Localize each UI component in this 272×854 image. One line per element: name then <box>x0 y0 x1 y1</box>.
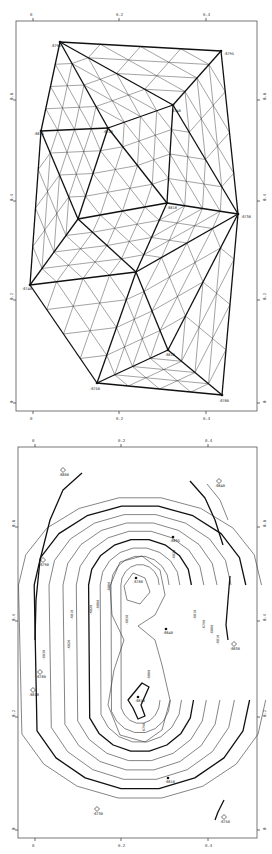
y-tick-label-left: 0.2 <box>11 709 16 717</box>
mesh-edge <box>152 179 168 185</box>
mesh-node-label: -6810 <box>164 353 175 357</box>
mesh-element-edge <box>30 272 136 285</box>
mesh-edge <box>42 153 50 269</box>
mesh-edge <box>189 92 225 133</box>
mesh-node-label: -6750 <box>89 387 100 391</box>
mesh-edge <box>110 259 122 276</box>
x-tick-label-top: 0 <box>32 438 35 443</box>
mesh-edge <box>145 184 153 207</box>
y-tick-label-right: 0.2 <box>262 709 267 717</box>
mesh-edge <box>169 179 185 206</box>
control-point-marker <box>165 628 168 631</box>
contour-value-label: -6800 <box>210 625 214 635</box>
mesh-edge <box>91 107 96 129</box>
mesh-edge <box>145 89 185 91</box>
y-tick-label-right: 0.4 <box>262 193 267 201</box>
mesh-edge <box>115 292 144 375</box>
mesh-edge <box>55 64 91 129</box>
contour-value-label: -6820 <box>89 605 93 615</box>
mesh-edge <box>69 196 86 197</box>
mesh-edge <box>157 111 172 130</box>
well-diamond-icon <box>222 815 227 820</box>
contour-line <box>207 484 228 520</box>
mesh-edge <box>122 255 144 259</box>
control-point-label: -6810 <box>164 780 175 784</box>
mesh-node-label: -6740 <box>170 109 181 113</box>
mesh-fine-triangles <box>33 44 234 392</box>
mesh-node-label: -6780 <box>218 399 229 403</box>
mesh-element-edge <box>108 105 173 128</box>
mesh-edge <box>47 300 127 310</box>
y-tick-label-right: 0.2 <box>262 292 267 300</box>
mesh-node-marker <box>29 284 32 287</box>
contour-value-label: -6800 <box>107 582 111 592</box>
mesh-edge <box>123 122 125 147</box>
contour-value-label: -6800 <box>147 670 151 680</box>
mesh-edge <box>66 232 93 235</box>
control-point-marker <box>172 536 175 539</box>
mesh-edge <box>172 130 190 133</box>
mesh-edge <box>122 207 145 259</box>
contour-value-label: -6790 <box>142 723 146 733</box>
mesh-node-marker <box>221 394 224 397</box>
control-point-label: -6835 <box>169 539 180 543</box>
mesh-edge <box>42 269 57 282</box>
mesh-edge <box>58 130 86 196</box>
mesh-edge <box>50 151 100 153</box>
mesh-edge <box>100 215 144 255</box>
mesh-edge <box>100 147 123 215</box>
mesh-edge <box>185 132 190 206</box>
contour-line-index <box>190 481 223 545</box>
mesh-node-marker <box>166 202 169 205</box>
mesh-edge <box>144 211 221 255</box>
mesh-axes: 000.20.20.40.40.60.60.40.40.20.200 <box>9 12 267 421</box>
contour-value-label: -6830 <box>42 650 46 660</box>
mesh-edge <box>46 107 96 109</box>
mesh-edge <box>72 58 88 64</box>
y-tick-label-left: 0 <box>11 827 16 830</box>
mesh-panel: -6790-6795-6740-6720-6835-6818-6730-6740… <box>9 12 267 421</box>
contour-value-label: -6820 <box>172 550 176 560</box>
well-markers: -6800-6840-6790-6830-6818-6730-6750-6780… <box>28 468 240 825</box>
mesh-node-marker <box>237 213 240 216</box>
mesh-edge <box>69 129 92 197</box>
x-tick-label-bottom: 0.2 <box>118 843 126 848</box>
mesh-node-label: -6730 <box>240 215 251 219</box>
well-label: -6818 <box>28 693 39 697</box>
mesh-node-marker <box>172 104 175 107</box>
mesh-node-marker <box>107 127 110 130</box>
well-diamond-icon <box>95 807 100 812</box>
mesh-edge <box>213 229 221 249</box>
mesh-edge <box>144 255 162 258</box>
mesh-edge <box>86 184 153 196</box>
mesh-edge <box>221 248 235 259</box>
mesh-node-label: -6740 <box>21 287 32 291</box>
figure: -6790-6795-6740-6720-6835-6818-6730-6740… <box>0 0 272 854</box>
y-tick-label-right: 0.4 <box>262 613 267 621</box>
mesh-node-marker <box>96 382 99 385</box>
mesh-edge <box>33 247 42 269</box>
well-label: -6780 <box>35 675 46 679</box>
mesh-edge <box>80 275 109 358</box>
mesh-edge <box>172 130 221 212</box>
x-tick-label-bottom: 0 <box>32 843 35 848</box>
mesh-edge <box>159 220 212 228</box>
contour-value-label: -6810 <box>193 610 197 620</box>
mesh-element-edge <box>167 203 238 214</box>
well-diamond-icon <box>232 642 237 647</box>
mesh-edge <box>110 275 127 300</box>
x-tick-label-top: 0.2 <box>118 438 126 443</box>
x-tick-label-bottom: 0.4 <box>203 416 211 421</box>
y-tick-label-left: 0.6 <box>11 519 16 527</box>
mesh-edge <box>38 153 50 170</box>
contour-line <box>215 800 224 820</box>
x-tick-label-bottom: 0 <box>30 416 33 421</box>
contour-axes: 000.20.20.40.40.60.60.40.40.20.200 <box>11 438 267 848</box>
mesh-edge <box>191 384 209 392</box>
mesh-edge <box>80 355 107 358</box>
mesh-edge <box>101 147 123 151</box>
mesh-node-marker <box>167 349 170 352</box>
mesh-edge <box>152 111 157 185</box>
mesh-edge <box>57 232 93 282</box>
well-label: -6790 <box>38 563 49 567</box>
